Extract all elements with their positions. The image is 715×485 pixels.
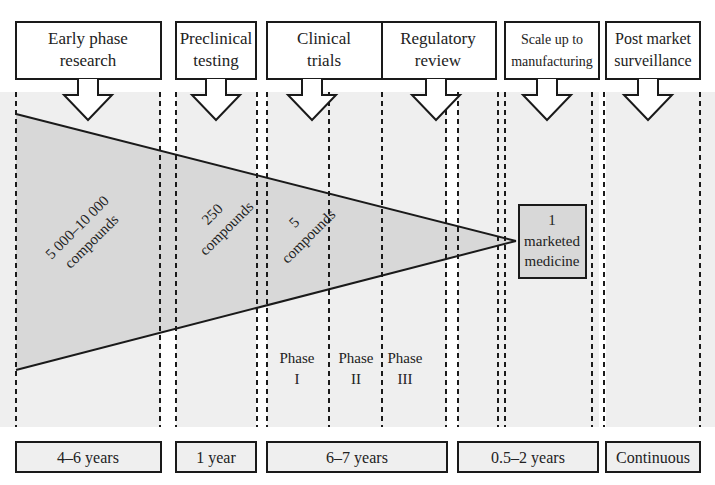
duration-box-preclinical: 1 year: [176, 442, 256, 472]
svg-text:Phase: Phase: [339, 350, 374, 366]
duration-box-scale-up: 0.5–2 years: [458, 442, 598, 472]
svg-text:I: I: [295, 371, 300, 387]
stage-label-line1: Preclinical: [180, 29, 253, 48]
svg-text:medicine: medicine: [525, 253, 580, 269]
stage-label-line1: Clinical: [297, 29, 351, 48]
stage-label-line1: Post market: [615, 30, 692, 47]
stage-label-line1: Regulatory: [400, 29, 476, 48]
svg-text:6–7 years: 6–7 years: [326, 449, 388, 467]
svg-text:4–6 years: 4–6 years: [57, 449, 119, 467]
svg-text:Phase: Phase: [388, 350, 423, 366]
stage-label-line2: surveillance: [614, 52, 691, 69]
svg-text:II: II: [351, 371, 361, 387]
stage-label-line2: review: [415, 51, 462, 70]
stage-label-line1: Early phase: [48, 29, 128, 48]
duration-box-early: 4–6 years: [16, 442, 161, 472]
svg-text:Phase: Phase: [280, 350, 315, 366]
svg-text:1: 1: [548, 212, 556, 228]
svg-text:0.5–2 years: 0.5–2 years: [491, 449, 565, 467]
duration-box-post-market: Continuous: [606, 442, 700, 472]
stage-label-line2: trials: [307, 51, 341, 70]
drug-development-diagram: Early phase research Preclinical testing…: [0, 0, 715, 485]
svg-text:III: III: [398, 371, 413, 387]
stage-label-line1: Scale up to: [521, 32, 583, 47]
svg-text:marketed: marketed: [524, 233, 580, 249]
stage-label-line2: manufacturing: [511, 54, 593, 69]
outcome-box-marketed-medicine: 1 marketed medicine: [519, 205, 586, 278]
svg-text:Continuous: Continuous: [616, 449, 690, 466]
svg-text:1 year: 1 year: [196, 449, 236, 467]
duration-box-clinical: 6–7 years: [267, 442, 447, 472]
stage-label-line2: research: [60, 51, 117, 70]
stage-label-line2: testing: [193, 51, 239, 70]
